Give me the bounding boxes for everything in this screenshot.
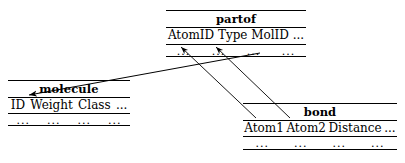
table-molecule-title: molecule [8, 82, 130, 96]
table-partof-title: partof [166, 12, 306, 26]
column-header: Atom2 [286, 121, 326, 135]
table-partof-columns: AtomID Type MolID ... [166, 28, 306, 42]
column-header: Class [78, 98, 111, 112]
column-header: ... [116, 98, 127, 112]
table-bond-columns: Atom1 Atom2 Distance ... [243, 121, 397, 135]
table-bond-title: bond [243, 105, 397, 119]
table-bond-bottom-rule [243, 149, 397, 150]
table-molecule: molecule ID Weight Class ... ... ... ...… [8, 80, 130, 126]
table-partof: partof AtomID Type MolID ... ... ... ...… [166, 10, 306, 57]
column-header: MolID [251, 28, 289, 42]
table-partof-bottom-rule [166, 56, 306, 57]
column-header: Distance [328, 121, 381, 135]
schema-diagram: partof AtomID Type MolID ... ... ... ...… [0, 0, 405, 163]
column-header: ID [11, 98, 25, 112]
column-header: AtomID [168, 28, 214, 42]
table-bond: bond Atom1 Atom2 Distance ... ... ... ..… [243, 103, 397, 150]
column-header: ... [384, 121, 395, 135]
column-header: Atom1 [244, 121, 284, 135]
column-header: Type [218, 28, 248, 42]
table-molecule-columns: ID Weight Class ... [8, 98, 130, 112]
column-header: Weight [30, 98, 73, 112]
table-molecule-bottom-rule [8, 125, 130, 126]
column-header: ... [293, 28, 304, 42]
